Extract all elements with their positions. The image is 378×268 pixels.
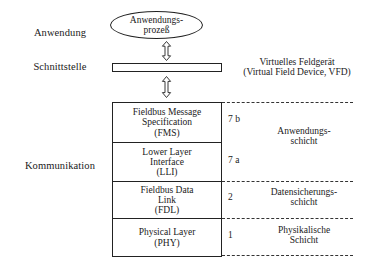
stack-osi-divider [221, 102, 222, 255]
protocol-stack: Fieldbus Message Specification (FMS) Low… [112, 102, 222, 257]
stack-layer-phy-label: Physical Layer (PHY) [139, 227, 196, 248]
dashed-separator-bottom [222, 255, 353, 256]
vfd-caption: Virtuelles Feldgerät (Virtual Field Devi… [222, 57, 372, 78]
stack-layer-lli-label: Lower Layer Interface (LLI) [142, 147, 191, 178]
stack-layer-phy: Physical Layer (PHY) [113, 219, 221, 256]
double-arrow-process-to-interface [161, 41, 172, 61]
osi-number-7b: 7 b [228, 114, 252, 124]
fms-communication-model-diagram: Anwendung Schnittstelle Kommunikation An… [0, 0, 378, 268]
double-arrow-interface-to-stack [161, 76, 172, 98]
stack-layer-lli: Lower Layer Interface (LLI) [113, 143, 221, 182]
osi-number-7a: 7 a [228, 155, 252, 165]
osi-number-1: 1 [228, 230, 252, 240]
stage-label-schnittstelle: Schnittstelle [12, 61, 108, 72]
dashed-separator-application-datalink [222, 181, 353, 182]
stack-layer-fms-label: Fieldbus Message Specification (FMS) [133, 107, 201, 138]
interface-bar [112, 63, 222, 72]
application-process-ellipse: Anwendungs- prozeß [110, 11, 203, 39]
stack-layer-fdl: Fieldbus Data Link (FDL) [113, 182, 221, 219]
osi-layer-name-datalink: Datensicherungs- schicht [252, 187, 356, 208]
stack-layer-fdl-label: Fieldbus Data Link (FDL) [140, 185, 193, 216]
osi-layer-name-physical: Physikalische Schicht [252, 225, 356, 246]
stack-layer-fms: Fieldbus Message Specification (FMS) [113, 103, 221, 143]
dashed-separator-top [222, 102, 353, 103]
osi-layer-name-application: Anwendungs- schicht [252, 126, 356, 147]
osi-number-2: 2 [228, 192, 252, 202]
dashed-separator-datalink-physical [222, 218, 353, 219]
stage-label-anwendung: Anwendung [12, 27, 108, 38]
stage-label-kommunikation: Kommunikation [8, 160, 112, 171]
application-process-label: Anwendungs- prozeß [130, 15, 183, 35]
